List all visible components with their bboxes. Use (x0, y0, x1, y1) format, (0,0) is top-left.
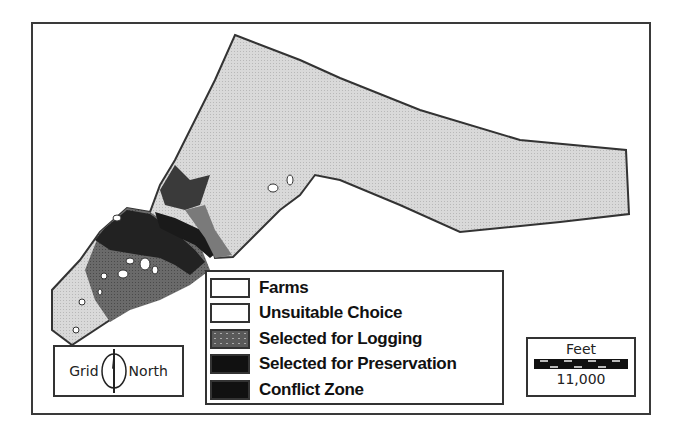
grid-label: Grid (69, 363, 98, 379)
legend-label: Unsuitable Choice (259, 303, 402, 323)
north-arrow-box: Grid North (53, 345, 184, 397)
legend-label: Selected for Preservation (259, 354, 457, 374)
scale-bar (534, 359, 628, 369)
legend-item-preservation: Selected for Preservation (210, 352, 502, 378)
swatch-preservation (210, 354, 250, 374)
legend-item-logging: Selected for Logging (210, 326, 502, 352)
map-legend: Farms Unsuitable Choice Selected for Log… (205, 270, 504, 405)
scale-bar-box: Feet 11,000 (526, 337, 636, 397)
legend-label: Conflict Zone (259, 380, 364, 400)
swatch-conflict (210, 380, 250, 400)
legend-item-conflict: Conflict Zone (210, 377, 502, 403)
north-arrow-icon (100, 347, 128, 395)
legend-item-farms: Farms (210, 275, 502, 301)
legend-label: Farms (259, 278, 309, 298)
north-label: North (129, 363, 168, 379)
legend-item-unsuitable: Unsuitable Choice (210, 301, 502, 327)
legend-label: Selected for Logging (259, 329, 422, 349)
scale-value: 11,000 (528, 370, 634, 388)
swatch-unsuitable (210, 303, 250, 323)
swatch-logging (210, 329, 250, 349)
swatch-farms (210, 278, 250, 298)
scale-unit: Feet (528, 341, 634, 357)
